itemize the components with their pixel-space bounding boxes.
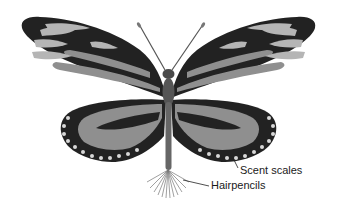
hairpencils: [147, 170, 189, 198]
butterfly-diagram: [0, 0, 337, 208]
hairpencils-leader-line: [183, 180, 209, 186]
head: [163, 69, 175, 79]
hairpencils-label: Hairpencils: [211, 180, 265, 191]
right-hindwing: [171, 99, 276, 162]
thorax: [163, 78, 175, 106]
right-forewing: [171, 17, 315, 98]
abdomen: [166, 102, 172, 170]
left-forewing: [22, 17, 166, 98]
left-hindwing: [61, 99, 166, 162]
scent-scales-label: Scent scales: [240, 165, 302, 176]
